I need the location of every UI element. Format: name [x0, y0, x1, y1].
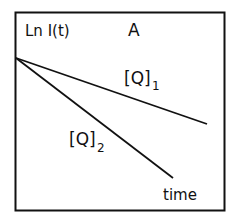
- svg-text:[Q]: [Q]: [124, 68, 151, 88]
- decay-plot: Ln I(t) A [Q] 1 [Q] 2 time: [0, 0, 234, 220]
- x-axis-label: time: [163, 186, 197, 204]
- svg-text:2: 2: [97, 141, 105, 155]
- q1-label: [Q] 1: [124, 68, 160, 93]
- panel-label: A: [128, 20, 140, 40]
- line-q1: [16, 58, 207, 124]
- plot-frame: [16, 13, 225, 211]
- q2-label: [Q] 2: [69, 129, 105, 155]
- svg-text:[Q]: [Q]: [69, 129, 96, 149]
- y-axis-label: Ln I(t): [25, 22, 70, 40]
- svg-text:1: 1: [152, 79, 160, 93]
